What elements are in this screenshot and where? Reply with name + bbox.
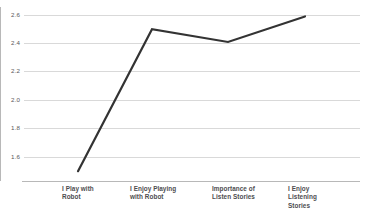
x-tick-line: I Enjoy Playing (130, 185, 194, 193)
x-tick-line: Robot (62, 193, 126, 201)
line-chart: 2.6 2.4 2.2 2.0 1.8 1.6 I Play with Robo… (0, 0, 366, 223)
x-tick-label-i-enjoy-listening-stories: I Enjoy Listening Stories (288, 185, 352, 210)
x-tick-line: Stories (288, 202, 352, 210)
x-tick-label-importance-of-listen-stories: Importance of Listen Stories (212, 185, 276, 202)
x-axis-category-labels: I Play with Robot I Enjoy Playing with R… (0, 185, 366, 223)
x-tick-line: Listen Stories (212, 193, 276, 201)
x-tick-line: Importance of (212, 185, 276, 193)
x-tick-line: I Play with (62, 185, 126, 193)
x-tick-line: Listening (288, 193, 352, 201)
series-polyline (78, 16, 305, 171)
x-tick-line: with Robot (130, 193, 194, 201)
x-tick-label-i-enjoy-playing-with-robot: I Enjoy Playing with Robot (130, 185, 194, 202)
x-tick-label-i-play-with-robot: I Play with Robot (62, 185, 126, 202)
x-tick-line: I Enjoy (288, 185, 352, 193)
